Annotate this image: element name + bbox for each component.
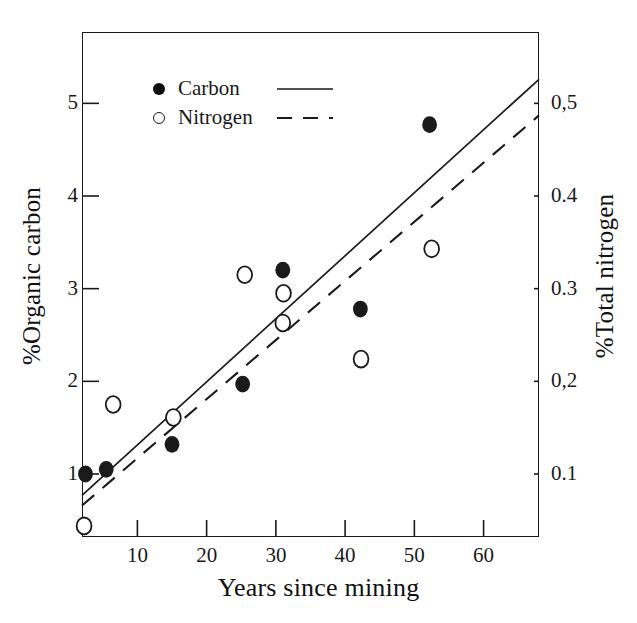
y-axis-left-title: %Organic carbon bbox=[18, 126, 46, 426]
x-tick-30: 30 bbox=[253, 545, 299, 566]
legend-label-carbon: Carbon bbox=[178, 76, 274, 101]
legend-item-nitrogen: Nitrogen bbox=[148, 103, 336, 132]
y2-tick-0-5: 0,5 bbox=[551, 92, 603, 113]
y2-tick-0-1: 0.1 bbox=[551, 463, 603, 484]
y-tick-3: 3 bbox=[44, 278, 78, 299]
y-tick-2: 2 bbox=[44, 370, 78, 391]
legend-item-carbon: Carbon bbox=[148, 74, 336, 103]
y-tick-5: 5 bbox=[44, 92, 78, 113]
dashed-line-icon bbox=[274, 115, 336, 121]
x-tick-40: 40 bbox=[322, 545, 368, 566]
x-tick-10: 10 bbox=[114, 545, 160, 566]
x-tick-20: 20 bbox=[184, 545, 230, 566]
x-tick-60: 60 bbox=[461, 545, 507, 566]
filled-circle-icon bbox=[148, 83, 170, 95]
chart-figure: Carbon Nitrogen 12345 0.10,20.30.40,5 10… bbox=[0, 0, 637, 623]
x-tick-50: 50 bbox=[391, 545, 437, 566]
y-axis-right-title: %Total nitrogen bbox=[591, 126, 619, 426]
x-axis-title: Years since mining bbox=[0, 573, 637, 603]
chart-legend: Carbon Nitrogen bbox=[148, 74, 336, 132]
solid-line-icon bbox=[274, 86, 336, 92]
legend-label-nitrogen: Nitrogen bbox=[178, 105, 274, 130]
y-tick-1: 1 bbox=[44, 463, 78, 484]
open-circle-icon bbox=[148, 112, 170, 124]
y-tick-4: 4 bbox=[44, 185, 78, 206]
